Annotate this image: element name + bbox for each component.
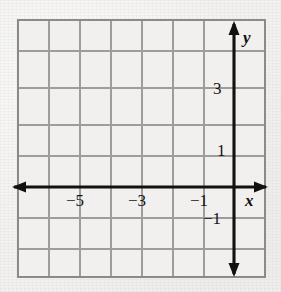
coordinate-plane (0, 0, 281, 292)
y-tick-label-pos1: 1 (217, 142, 226, 159)
x-axis-label: x (245, 192, 254, 209)
y-tick-label-neg1: −1 (203, 210, 221, 227)
x-tick-label-neg1: −1 (190, 192, 208, 209)
x-tick-label-neg3: −3 (128, 192, 146, 209)
y-tick-label-pos3: 3 (213, 80, 222, 97)
y-axis-label: y (243, 29, 251, 46)
x-tick-label-neg5: −5 (66, 192, 84, 209)
coordinate-grid-figure: y x −5 −3 −1 3 1 −1 (0, 0, 281, 292)
